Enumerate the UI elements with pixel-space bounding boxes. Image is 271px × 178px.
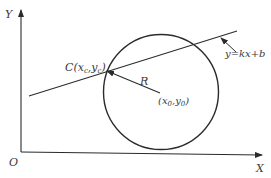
x-axis xyxy=(21,152,262,155)
circle-line-intersection-diagram: Y X O y=kx+b R (x0,y0) C(xc,yc) xyxy=(0,0,271,178)
line-y-kx-b xyxy=(29,31,237,96)
line-equation-label: y=kx+b xyxy=(224,48,266,59)
point-c-label: C(xc,yc) xyxy=(65,61,106,75)
circle xyxy=(104,35,219,150)
center-label: (x0,y0) xyxy=(158,95,189,108)
x-axis-label: X xyxy=(255,162,265,175)
radius-label: R xyxy=(139,75,148,88)
radius-line xyxy=(107,71,160,93)
origin-label: O xyxy=(9,156,18,169)
y-axis-label: Y xyxy=(5,8,14,21)
